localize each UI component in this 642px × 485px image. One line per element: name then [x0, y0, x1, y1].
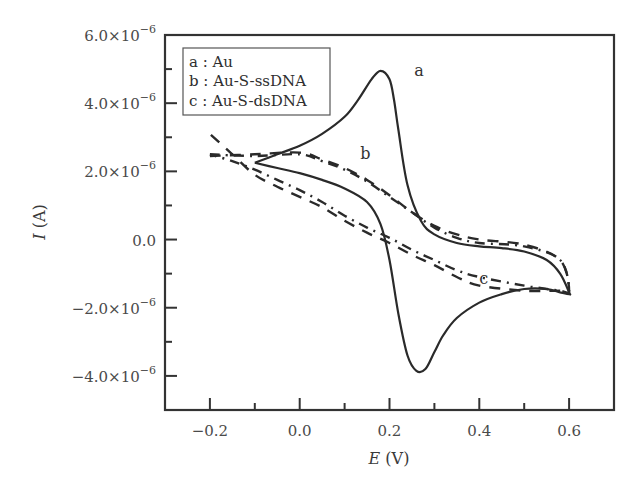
y-axis-title: I (A) — [30, 204, 49, 240]
x-tick-label: 0.6 — [557, 422, 581, 440]
x-axis-title-symbol: E — [368, 449, 381, 468]
curve-labels: abc — [360, 61, 488, 288]
legend-entry-c: c : Au-S-dsDNA — [189, 92, 307, 110]
y-tick-label: 0.0 — [132, 232, 156, 250]
x-axis-title: E (V) — [368, 449, 410, 468]
y-tick-label: −2.0×10−6 — [72, 296, 156, 318]
y-tick-label: 4.0×10−6 — [84, 91, 156, 113]
y-axis-ticks: −4.0×10−6−2.0×10−60.02.0×10−64.0×10−66.0… — [72, 23, 177, 386]
series-c-line — [210, 154, 569, 293]
series-a-line — [255, 71, 570, 372]
x-axis-ticks: −0.20.00.20.40.6 — [192, 398, 581, 440]
y-tick-label: −4.0×10−6 — [72, 364, 156, 386]
curve-label-b: b — [360, 144, 370, 163]
x-axis-title-unit: (V) — [380, 449, 409, 468]
y-tick-label: 2.0×10−6 — [84, 159, 156, 181]
x-tick-label: −0.2 — [192, 422, 228, 440]
legend-entry-a: a : Au — [189, 53, 233, 71]
y-axis-title-unit: (A) — [30, 204, 49, 233]
x-tick-label: 0.2 — [378, 422, 402, 440]
x-tick-label: 0.0 — [288, 422, 312, 440]
x-tick-label: 0.4 — [467, 422, 491, 440]
legend: a : Au b : Au-S-ssDNA c : Au-S-dsDNA — [183, 48, 330, 115]
data-series — [210, 71, 570, 372]
curve-label-a: a — [414, 61, 424, 80]
legend-entry-b: b : Au-S-ssDNA — [189, 72, 306, 90]
cyclic-voltammogram-chart: −0.20.00.20.40.6 −4.0×10−6−2.0×10−60.02.… — [0, 0, 642, 485]
series-b-line — [210, 134, 569, 293]
curve-label-c: c — [479, 269, 488, 288]
y-tick-label: 6.0×10−6 — [84, 23, 156, 45]
